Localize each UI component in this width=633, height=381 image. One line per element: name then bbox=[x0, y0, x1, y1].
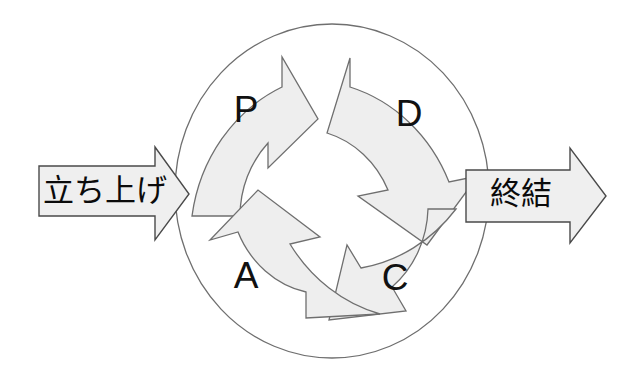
act-label: A bbox=[234, 255, 259, 296]
end-arrow-label: 終結 bbox=[490, 176, 552, 211]
start-arrow-label: 立ち上げ bbox=[43, 173, 167, 208]
quadrant-do[interactable]: D bbox=[327, 58, 478, 245]
plan-arrow-shape bbox=[192, 57, 318, 216]
quadrant-plan[interactable]: P bbox=[192, 57, 318, 216]
pdca-cycle-diagram: P D C A 立ち上げ 終結 bbox=[0, 0, 633, 381]
flow-arrow-start[interactable]: 立ち上げ bbox=[39, 147, 189, 240]
diagram-canvas: P D C A 立ち上げ 終結 bbox=[0, 0, 633, 381]
check-label: C bbox=[382, 257, 409, 298]
do-arrow-shape bbox=[327, 58, 478, 245]
do-label: D bbox=[396, 93, 423, 134]
plan-label: P bbox=[234, 89, 259, 130]
